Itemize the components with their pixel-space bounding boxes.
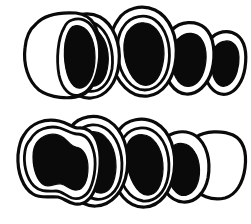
top-tube-1 <box>25 13 100 98</box>
line-drawing-canvas <box>0 0 251 224</box>
bottom-lobed-ring-1 <box>18 120 100 204</box>
figure-root: Two rows of tubular ring structures Blac… <box>0 0 251 224</box>
top-tube-1-lumen <box>64 26 95 89</box>
